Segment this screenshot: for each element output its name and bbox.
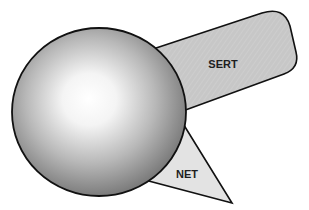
sphere (12, 28, 186, 196)
net-label: NET (176, 168, 198, 180)
sert-label: SERT (208, 58, 238, 70)
diagram-canvas: SERT NET (0, 0, 309, 210)
